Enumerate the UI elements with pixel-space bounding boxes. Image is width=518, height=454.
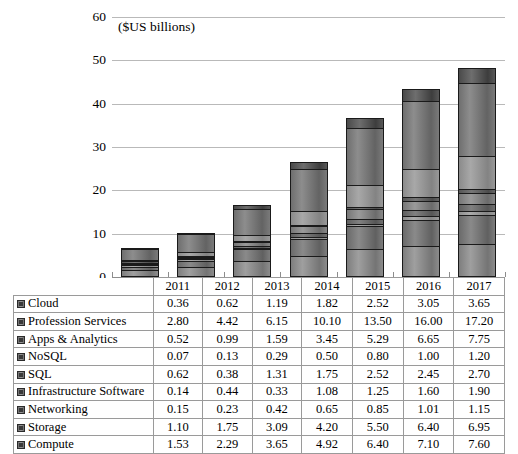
table-cell: 1.00	[403, 348, 454, 366]
series-name: Profession Services	[28, 314, 126, 328]
table-cell: 1.59	[252, 330, 302, 348]
plot-area	[112, 17, 505, 277]
bar-segment	[290, 169, 328, 213]
table-cell: 1.75	[302, 365, 353, 383]
table-cell: 1.90	[454, 383, 505, 401]
bar-segment	[121, 270, 159, 277]
bar-segment	[290, 256, 328, 277]
legend-row-label: SQL	[14, 365, 154, 383]
y-axis: 6050403020100	[60, 17, 106, 277]
legend-swatch-icon	[17, 353, 25, 361]
legend-swatch-icon	[17, 424, 25, 432]
table-cell: 10.10	[302, 313, 353, 331]
table-cell: 5.50	[352, 418, 403, 436]
table-cell: 6.40	[403, 418, 454, 436]
bar-group-2014	[290, 162, 328, 277]
table-cell: 0.15	[153, 401, 202, 419]
table-column-header-2013: 2013	[252, 278, 302, 296]
table-cell: 4.20	[302, 418, 353, 436]
table-row: Apps & Analytics0.520.991.593.455.296.65…	[14, 330, 505, 348]
bar-segment	[233, 249, 271, 262]
table-cell: 1.19	[252, 295, 302, 313]
bar-segment	[233, 209, 271, 236]
table-cell: 1.01	[403, 401, 454, 419]
table-cell: 0.62	[153, 365, 202, 383]
legend-row-label: Infrastructure Software	[14, 383, 154, 401]
series-name: NoSQL	[28, 349, 67, 363]
gridline-30	[112, 147, 505, 148]
table-cell: 17.20	[454, 313, 505, 331]
bar-group-2015	[346, 118, 384, 277]
bar-segment	[346, 128, 384, 187]
table-cell: 1.75	[203, 418, 253, 436]
bar-segment	[290, 239, 328, 257]
table-cell: 1.15	[454, 401, 505, 419]
table-cell: 2.70	[454, 365, 505, 383]
legend-swatch-icon	[17, 336, 25, 344]
table-cell: 6.40	[352, 436, 403, 454]
table-cell: 7.10	[403, 436, 454, 454]
table-cell: 0.36	[153, 295, 202, 313]
bar-segment	[233, 261, 271, 277]
table-cell: 1.53	[153, 436, 202, 454]
table-cell: 16.00	[403, 313, 454, 331]
legend-row-label: Profession Services	[14, 313, 154, 331]
table-cell: 2.29	[203, 436, 253, 454]
legend-row-label: Compute	[14, 436, 154, 454]
bar-segment	[346, 226, 384, 250]
gridline-40	[112, 104, 505, 105]
legend-swatch-icon	[17, 406, 25, 414]
table-cell: 0.14	[153, 383, 202, 401]
table-header-row: 2011201220132014201520162017	[14, 278, 505, 296]
table-cell: 0.07	[153, 348, 202, 366]
y-tick-label-10: 10	[66, 227, 106, 241]
table-cell: 0.65	[302, 401, 353, 419]
bar-group-2016	[402, 89, 440, 277]
legend-row-label: Networking	[14, 401, 154, 419]
table-cell: 0.62	[203, 295, 253, 313]
table-cell: 1.25	[352, 383, 403, 401]
table-row: Profession Services2.804.426.1510.1013.5…	[14, 313, 505, 331]
data-table: 2011201220132014201520162017 Cloud0.360.…	[13, 277, 505, 454]
bar-segment	[290, 211, 328, 226]
table-cell: 1.31	[252, 365, 302, 383]
table-cell: 1.10	[153, 418, 202, 436]
table-row: Storage1.101.753.094.205.506.406.95	[14, 418, 505, 436]
table-cell: 3.09	[252, 418, 302, 436]
series-name: Networking	[28, 402, 88, 416]
legend-row-label: Cloud	[14, 295, 154, 313]
table-cell: 0.44	[203, 383, 253, 401]
bar-segment	[346, 249, 384, 277]
x-axis-tick	[505, 272, 506, 277]
table-cell: 2.52	[352, 295, 403, 313]
table-cell: 0.13	[203, 348, 253, 366]
series-name: Storage	[28, 420, 66, 434]
gridline-60	[112, 17, 505, 18]
table-row: SQL0.620.381.311.752.522.452.70	[14, 365, 505, 383]
y-tick-label-30: 30	[66, 140, 106, 154]
bar-segment	[458, 215, 496, 245]
table-cell: 0.33	[252, 383, 302, 401]
table-cell: 1.60	[403, 383, 454, 401]
table-cell: 3.05	[403, 295, 454, 313]
bar-segment	[177, 267, 215, 277]
legend-swatch-icon	[17, 300, 25, 308]
bar-group-2012	[177, 233, 215, 277]
table-cell: 0.29	[252, 348, 302, 366]
series-name: Infrastructure Software	[28, 384, 144, 398]
table-cell: 7.75	[454, 330, 505, 348]
series-name: SQL	[28, 367, 52, 381]
table-column-header-2012: 2012	[203, 278, 253, 296]
legend-swatch-icon	[17, 318, 25, 326]
legend-row-label: Apps & Analytics	[14, 330, 154, 348]
bar-group-2013	[233, 205, 271, 277]
bar-segment	[458, 244, 496, 277]
y-tick-label-50: 50	[66, 53, 106, 67]
bar-segment	[458, 83, 496, 158]
table-body: Cloud0.360.621.191.822.523.053.65Profess…	[14, 295, 505, 453]
y-tick-label-20: 20	[66, 183, 106, 197]
bar-group-2017	[458, 68, 496, 277]
table-cell: 0.52	[153, 330, 202, 348]
table-cell: 0.80	[352, 348, 403, 366]
